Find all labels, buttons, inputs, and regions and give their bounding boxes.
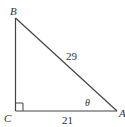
vertex-label-b: B — [10, 5, 17, 17]
angle-theta-label: θ — [85, 97, 90, 108]
right-angle-marker — [16, 103, 24, 111]
base-length-label: 21 — [62, 114, 73, 126]
vertex-label-a: A — [118, 107, 125, 119]
triangle-sides — [16, 18, 118, 111]
right-triangle-diagram: B C A 29 21 θ — [0, 0, 125, 127]
hypotenuse-length-label: 29 — [66, 50, 78, 62]
side-ba-hypotenuse — [16, 18, 118, 111]
vertex-label-c: C — [4, 112, 12, 124]
